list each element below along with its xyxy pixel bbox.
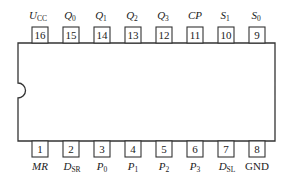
- bottom-pin-7: 7 DSL: [218, 141, 236, 174]
- svg-text:Q3: Q3: [157, 9, 169, 23]
- top-pin-12: 12 Q3: [156, 9, 172, 43]
- svg-text:UCC: UCC: [29, 9, 47, 23]
- svg-text:13: 13: [128, 29, 140, 41]
- svg-text:CP: CP: [188, 9, 202, 21]
- svg-text:15: 15: [66, 29, 78, 41]
- bottom-pin-5: 5 P2: [156, 141, 172, 174]
- svg-text:4: 4: [130, 143, 136, 155]
- top-pin-16: 16 UCC: [29, 9, 48, 43]
- svg-text:9: 9: [254, 29, 260, 41]
- bottom-pin-8: 8 GND: [245, 141, 269, 172]
- svg-text:7: 7: [223, 143, 229, 155]
- svg-text:10: 10: [221, 29, 233, 41]
- svg-text:6: 6: [192, 143, 198, 155]
- bottom-pin-2: 2 DSR: [62, 141, 80, 174]
- svg-text:5: 5: [161, 143, 167, 155]
- svg-text:P1: P1: [127, 160, 139, 174]
- bottom-pin-6: 6 P3: [187, 141, 203, 174]
- svg-text:Q2: Q2: [126, 9, 138, 23]
- svg-text:P2: P2: [158, 160, 170, 174]
- svg-text:GND: GND: [245, 160, 269, 172]
- top-pin-10: 10 S1: [218, 9, 234, 43]
- svg-text:Q1: Q1: [95, 9, 107, 23]
- top-pin-13: 13 Q2: [125, 9, 141, 43]
- svg-text:DSR: DSR: [62, 160, 80, 174]
- chip-body: [18, 43, 275, 141]
- top-pin-9: 9 S0: [249, 9, 265, 43]
- svg-text:MR: MR: [31, 160, 48, 172]
- svg-text:3: 3: [99, 143, 105, 155]
- top-pin-15: 15 Q0: [63, 9, 79, 43]
- svg-text:14: 14: [97, 29, 109, 41]
- top-pin-14: 14 Q1: [94, 9, 110, 43]
- svg-text:12: 12: [159, 29, 170, 41]
- svg-text:2: 2: [68, 143, 74, 155]
- svg-text:P3: P3: [189, 160, 201, 174]
- svg-text:S0: S0: [251, 9, 261, 23]
- top-pin-11: 11 CP: [187, 9, 203, 43]
- svg-text:Q0: Q0: [64, 9, 76, 23]
- svg-text:P0: P0: [96, 160, 108, 174]
- bottom-pin-3: 3 P0: [94, 141, 110, 174]
- svg-text:11: 11: [190, 29, 201, 41]
- svg-text:DSL: DSL: [218, 160, 236, 174]
- svg-text:8: 8: [254, 143, 260, 155]
- svg-text:S1: S1: [220, 9, 230, 23]
- svg-text:16: 16: [35, 29, 47, 41]
- bottom-pin-4: 4 P1: [125, 141, 141, 174]
- bottom-pin-1: 1 MR: [31, 141, 48, 172]
- svg-text:1: 1: [37, 143, 43, 155]
- ic-pinout-diagram: 16 UCC 15 Q0 14 Q1 13 Q2 12 Q3 11 CP 10 …: [0, 0, 288, 176]
